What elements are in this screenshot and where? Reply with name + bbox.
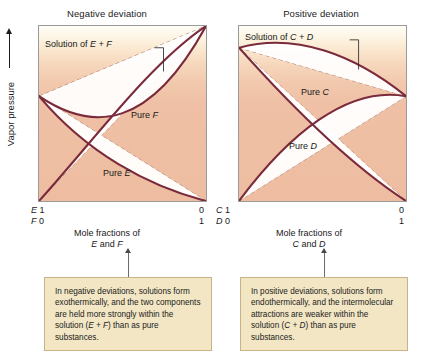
- x-axis-right-ticks-positive: 0 1: [378, 205, 404, 226]
- solution-label-positive: Solution of C + D: [245, 32, 313, 42]
- x-axis-caption-line1: Mole fractions of: [202, 228, 416, 239]
- x-axis-caption-line1: Mole fractions of: [0, 228, 214, 239]
- pure-d-band-positive: [239, 95, 406, 201]
- note-leader-arrow-positive: [321, 248, 327, 253]
- pure-d-label-positive: Pure D: [289, 141, 317, 151]
- note-positive-deviation: In positive deviations, solutions form e…: [240, 277, 408, 351]
- pure-c-label-positive: Pure C: [301, 87, 329, 97]
- panel-title-positive: Positive deviation: [214, 8, 428, 19]
- x-axis-left-ticks-negative: E1 F0: [31, 205, 45, 226]
- x-axis-caption-line2: E and F: [0, 239, 214, 250]
- plot-negative-deviation: Solution of E + F Pure F Pure E: [38, 25, 207, 202]
- note-leader-line-positive: [324, 252, 325, 277]
- plot-positive-deviation: Solution of C + D Pure C Pure D: [238, 25, 407, 202]
- x-axis-tick-d-1: 1: [378, 216, 404, 227]
- x-axis-tick-f-0: F0: [31, 216, 45, 227]
- x-axis-tick-e-0: 0: [178, 205, 204, 216]
- x-axis-right-ticks-negative: 0 1: [178, 205, 204, 226]
- x-axis-caption-line2: C and D: [202, 239, 416, 250]
- pure-e-label-negative: Pure E: [103, 168, 131, 178]
- x-axis-caption-positive: Mole fractions of C and D: [202, 228, 416, 250]
- x-axis-left-ticks-positive: C1 D0: [216, 205, 230, 226]
- x-axis-tick-c-1: C1: [216, 205, 230, 216]
- vapor-pressure-deviation-figure: Vapor pressure Negative deviation: [0, 0, 428, 358]
- x-axis-caption-negative: Mole fractions of E and F: [0, 228, 214, 250]
- panel-negative-deviation: Negative deviation: [0, 0, 214, 260]
- panel-positive-deviation: Positive deviation: [214, 0, 428, 260]
- plot-curves-positive: [239, 26, 406, 201]
- solution-label-negative: Solution of E + F: [45, 39, 112, 49]
- x-axis-tick-f-1: 1: [178, 216, 204, 227]
- note-positive-text-em: C + D: [284, 321, 305, 330]
- note-negative-deviation: In negative deviations, solutions form e…: [44, 277, 212, 351]
- note-leader-arrow-negative: [125, 248, 131, 253]
- panel-title-negative: Negative deviation: [0, 8, 214, 19]
- x-axis-tick-e-1: E1: [31, 205, 45, 216]
- note-leader-line-negative: [128, 252, 129, 277]
- x-axis-tick-d-0: D0: [216, 216, 230, 227]
- x-axis-tick-c-0: 0: [378, 205, 404, 216]
- pure-f-label-negative: Pure F: [131, 110, 158, 120]
- note-negative-text-em: E + F: [88, 321, 108, 330]
